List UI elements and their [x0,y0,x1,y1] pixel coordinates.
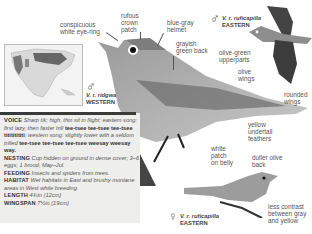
leader-line-back [173,56,174,70]
label-eye-ring: conspicuous white eye-ring [60,21,100,35]
label-duller-back: duller olive back [252,154,283,168]
female-symbol-icon: ♀ [168,210,178,223]
label-rounded-wings: rounded wings [284,91,307,105]
feeding-entry: FEEDING Insects and spiders from trees. [4,170,140,178]
nesting-entry: NESTING Cup hidden on ground in dense co… [4,155,140,170]
male-symbol-icon-eastern: ♂ [210,12,220,25]
label-undertail: yellow undertail feathers [248,121,273,143]
info-panel-text: VOICE Sharp tik; high, thin sit in fligh… [4,117,140,207]
length-entry: LENGTH 4¾in (12cm) [4,192,140,200]
north-america-map-icon [5,45,82,105]
info-panel-divider [0,112,136,115]
eastern-female-caption: V. r. ruficapilla EASTERN [180,213,219,226]
label-upperparts: olive-green upperparts [219,49,251,63]
leader-line-crown [140,32,141,40]
range-map [4,44,83,106]
wingspan-entry: WINGSPAN 7½in (19cm) [4,200,140,208]
label-helmet: blue-gray helmet [167,19,194,33]
habitat-entry: HABITAT Wet habitats in East and brushy … [4,177,140,192]
eastern-male-caption: V. r. ruficapilla EASTERN [222,15,261,28]
label-belly: white patch on belly [211,145,233,167]
label-back: grayish green back [176,40,208,54]
voice-entry: VOICE Sharp tik; high, thin sit in fligh… [4,117,140,155]
label-crown-patch: rufous crown patch [121,12,139,34]
label-less-contrast: less contrast between gray and yellow [268,203,306,225]
